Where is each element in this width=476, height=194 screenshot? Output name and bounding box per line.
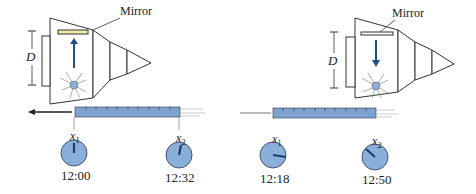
x1-label-right: x1 (272, 132, 282, 148)
distance-label-left: D (26, 49, 35, 65)
left-ruler (28, 107, 205, 130)
clock-time-right-2: 12:50 (362, 172, 392, 188)
mirror-label-left: Mirror (120, 4, 152, 19)
mirror (361, 32, 393, 35)
left-spaceship (28, 18, 151, 104)
right-ruler (240, 108, 398, 118)
right-spaceship (330, 18, 454, 98)
mirror-label-right: Mirror (392, 6, 424, 21)
clock-time-left-2: 12:32 (165, 170, 195, 186)
light-clock-diagram (0, 0, 476, 194)
x2-label-right: x2 (372, 134, 382, 150)
x1-label-left: x1 (70, 129, 80, 145)
x2-label-left: x2 (176, 131, 186, 147)
distance-label-right: D (328, 53, 337, 69)
clock-time-right-1: 12:18 (260, 171, 290, 187)
mirror (58, 30, 88, 34)
clock-time-left-1: 12:00 (61, 168, 91, 184)
